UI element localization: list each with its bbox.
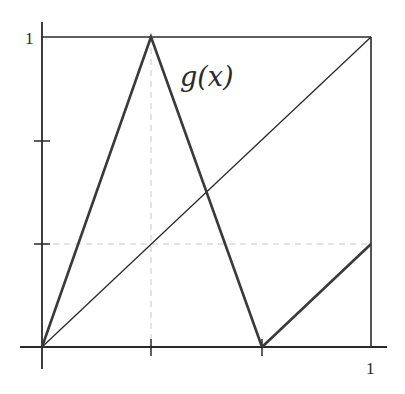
function-label: g(x) xyxy=(180,61,234,92)
x-axis-label-1: 1 xyxy=(366,359,375,378)
y-axis-label-1: 1 xyxy=(25,29,34,48)
g-curve-branch xyxy=(262,244,371,347)
function-plot: 1 1 g(x) xyxy=(0,0,405,394)
